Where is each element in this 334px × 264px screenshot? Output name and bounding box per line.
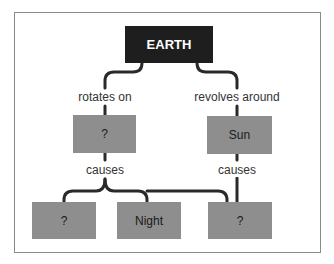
connector-brace-right: [147, 191, 227, 202]
leaf-node-1-label: ?: [61, 214, 68, 228]
leaf-node-3: ?: [208, 202, 272, 239]
connector-brace-left: [64, 179, 105, 202]
connector-earth-rotates: [105, 63, 142, 88]
edge-label-causes-left: causes: [85, 163, 125, 177]
edge-label-revolves-around: revolves around: [193, 90, 280, 104]
root-node-earth: EARTH: [125, 26, 213, 63]
node-sun: Sun: [207, 116, 272, 154]
edge-label-rotates-on: rotates on: [77, 90, 132, 104]
node-sun-label: Sun: [229, 128, 250, 142]
node-rotation-label: ?: [101, 127, 108, 141]
leaf-node-3-label: ?: [237, 214, 244, 228]
leaf-node-night: Night: [117, 202, 181, 239]
root-node-label: EARTH: [147, 37, 192, 52]
leaf-node-1: ?: [32, 202, 96, 239]
edge-label-causes-right: causes: [217, 163, 257, 177]
leaf-node-night-label: Night: [135, 214, 163, 228]
connector-earth-revolves: [197, 63, 237, 88]
connector-brace-night: [105, 179, 147, 202]
node-rotation: ?: [73, 115, 136, 153]
